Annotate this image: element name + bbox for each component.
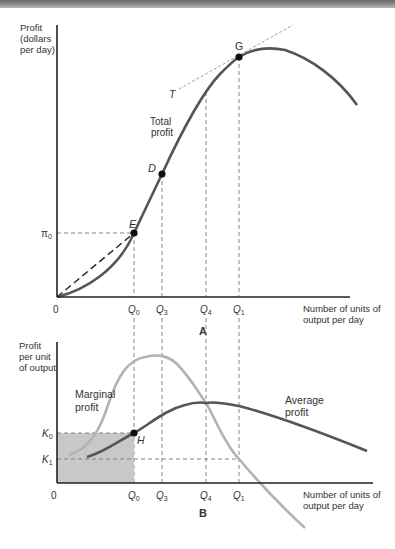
panel-letter-b: B <box>199 507 207 519</box>
origin-label-b: 0 <box>51 490 57 501</box>
pi0-label: π0 <box>41 228 52 240</box>
tick-q3-a: Q3 <box>156 304 168 316</box>
k0-label: K0 <box>42 428 53 440</box>
average-profit-label: Average profit <box>285 394 327 418</box>
label-d: D <box>148 162 156 174</box>
k1-label: K1 <box>42 454 53 466</box>
label-g: G <box>235 40 243 52</box>
ray-to-e <box>57 233 134 297</box>
origin-label-a: 0 <box>53 304 59 315</box>
y-axis-label-a: Profit (dollars per day) <box>20 22 55 55</box>
label-e: E <box>129 218 137 230</box>
label-t: T <box>169 88 177 100</box>
tick-q4-b: Q4 <box>200 490 212 502</box>
point-e <box>130 229 137 236</box>
panel-a: Profit (dollars per day) Number of units… <box>20 22 383 337</box>
tick-q0-b: Q0 <box>128 490 140 502</box>
tick-q1-a: Q1 <box>233 304 245 316</box>
y-axis-label-b: Profit per unit of output <box>19 340 56 373</box>
point-d <box>158 170 165 177</box>
tick-q3-b: Q3 <box>156 490 168 502</box>
inter-panel-guides <box>134 318 239 483</box>
marginal-profit-label: Marginal profit <box>75 388 118 413</box>
total-profit-label-2: Total profit <box>150 116 174 138</box>
chart-canvas: Profit (dollars per day) Number of units… <box>0 0 395 549</box>
x-axis-label-a: Number of units of output per day <box>303 303 383 325</box>
x-axis-label-b: Number of units of output per day <box>303 489 383 511</box>
panel-b: Profit per unit of output Marginal profi… <box>19 340 383 528</box>
tick-q1-b: Q1 <box>233 490 245 502</box>
point-g <box>235 53 242 60</box>
tick-q4-a: Q4 <box>200 304 212 316</box>
tick-q0-a: Q0 <box>128 304 140 316</box>
label-h: H <box>137 434 145 446</box>
